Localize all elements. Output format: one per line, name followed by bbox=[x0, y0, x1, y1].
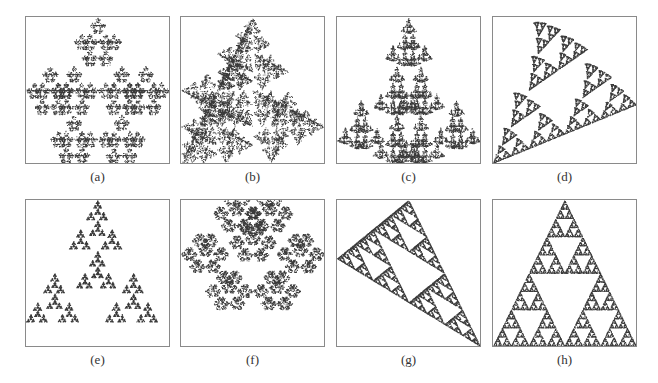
panel-e: (e) bbox=[25, 199, 170, 367]
caption-d: (d) bbox=[492, 170, 637, 184]
fractal-frame-c bbox=[336, 16, 481, 164]
fractal-image-f bbox=[181, 200, 324, 346]
panel-f: (f) bbox=[180, 199, 325, 367]
fractal-image-b bbox=[181, 17, 324, 163]
fractal-frame-e bbox=[25, 199, 170, 347]
fractal-frame-f bbox=[180, 199, 325, 347]
panel-d: (d) bbox=[492, 16, 637, 184]
caption-h: (h) bbox=[492, 353, 637, 367]
fractal-frame-d bbox=[492, 16, 637, 164]
fractal-image-g bbox=[337, 200, 480, 346]
panel-b: (b) bbox=[180, 16, 325, 184]
caption-c: (c) bbox=[336, 170, 481, 184]
fractal-image-d bbox=[493, 17, 636, 163]
caption-b: (b) bbox=[180, 170, 325, 184]
panel-a: (a) bbox=[25, 16, 170, 184]
panel-g: (g) bbox=[336, 199, 481, 367]
fractal-frame-g bbox=[336, 199, 481, 347]
fractal-frame-h bbox=[492, 199, 637, 347]
fractal-frame-b bbox=[180, 16, 325, 164]
fractal-frame-a bbox=[25, 16, 170, 164]
panel-h: (h) bbox=[492, 199, 637, 367]
fractal-image-c bbox=[337, 17, 480, 163]
fractal-image-h bbox=[493, 200, 636, 346]
caption-e: (e) bbox=[25, 353, 170, 367]
caption-g: (g) bbox=[336, 353, 481, 367]
caption-a: (a) bbox=[25, 170, 170, 184]
panel-c: (c) bbox=[336, 16, 481, 184]
fractal-image-e bbox=[26, 200, 169, 346]
fractal-image-a bbox=[26, 17, 169, 163]
caption-f: (f) bbox=[180, 353, 325, 367]
